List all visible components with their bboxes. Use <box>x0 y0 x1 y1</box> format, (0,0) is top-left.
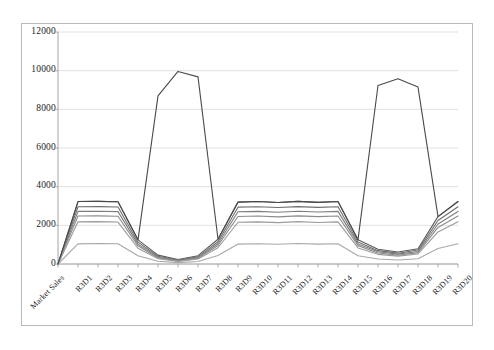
y-axis-tick-label: 12000 <box>16 26 56 36</box>
y-axis-tick-label: 10000 <box>16 64 56 74</box>
y-axis-tick-label: 4000 <box>16 180 56 190</box>
chart-root: 12000 10000 8000 6000 4000 2000 0 Market… <box>0 0 494 350</box>
y-axis-tick-label: 0 <box>16 258 56 268</box>
y-axis-tick-label: 6000 <box>16 142 56 152</box>
y-axis-tick-label: 8000 <box>16 103 56 113</box>
y-axis-tick-label: 2000 <box>16 219 56 229</box>
